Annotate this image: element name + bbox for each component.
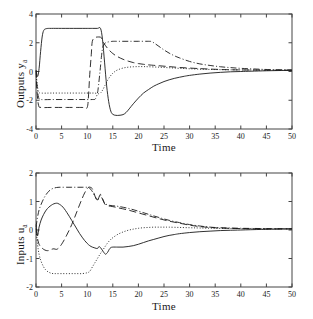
x-tick-label: 40 [237, 290, 245, 299]
x-tick-label: 30 [186, 132, 194, 141]
y-tick-label: 2 [29, 169, 33, 178]
x-tick-label: 25 [160, 290, 168, 299]
series-output-4 [36, 41, 292, 99]
x-tick-label: 5 [60, 290, 64, 299]
x-tick-label: 50 [288, 290, 296, 299]
y-tick-label: 0 [29, 68, 33, 77]
inputs-plot: 05101520253035404550-2-1012 [0, 160, 313, 319]
series-output-3 [36, 67, 292, 94]
x-tick-label: 40 [237, 132, 245, 141]
x-tick-label: 15 [109, 290, 117, 299]
outputs-chart-panel: 05101520253035404550-4-2024 Outputs ya T… [0, 0, 313, 160]
x-tick-label: 35 [211, 132, 219, 141]
x-tick-label: 20 [134, 132, 142, 141]
inputs-chart-panel: 05101520253035404550-2-1012 Inputs ua Ti… [0, 160, 313, 319]
series-input-3 [36, 227, 292, 274]
y-tick-label: 2 [29, 39, 33, 48]
outputs-plot: 05101520253035404550-4-2024 [0, 0, 313, 160]
x-tick-label: 10 [83, 290, 91, 299]
x-tick-label: 0 [34, 290, 38, 299]
x-tick-label: 0 [34, 132, 38, 141]
x-tick-label: 50 [288, 132, 296, 141]
y-tick-label: 4 [29, 10, 33, 19]
x-tick-label: 15 [109, 132, 117, 141]
series-output-1 [36, 28, 292, 116]
inputs-y-axis-label: Inputs ua [14, 224, 29, 265]
series-input-2 [36, 187, 292, 251]
x-tick-label: 30 [186, 290, 194, 299]
figure-container: 05101520253035404550-4-2024 Outputs ya T… [0, 0, 313, 319]
inputs-y-axis-label-subscript: a [20, 224, 29, 228]
x-tick-label: 5 [60, 132, 64, 141]
x-tick-label: 10 [83, 132, 91, 141]
inputs-x-axis-label: Time [36, 300, 292, 312]
y-tick-label: 1 [29, 198, 33, 207]
x-tick-label: 25 [160, 132, 168, 141]
series-output-2 [36, 37, 292, 109]
x-tick-label: 45 [262, 290, 270, 299]
outputs-y-axis-label-subscript: a [20, 60, 29, 64]
y-tick-label: -4 [26, 125, 33, 134]
y-tick-label: 0 [29, 226, 33, 235]
series-input-4 [36, 187, 292, 229]
outputs-y-axis-label-text: Outputs y [14, 63, 26, 108]
outputs-x-axis-label: Time [36, 141, 292, 153]
inputs-y-axis-label-text: Inputs u [14, 228, 26, 265]
x-tick-label: 45 [262, 132, 270, 141]
x-tick-label: 35 [211, 290, 219, 299]
x-tick-label: 20 [134, 290, 142, 299]
y-tick-label: -2 [26, 283, 33, 292]
outputs-y-axis-label: Outputs ya [14, 60, 29, 108]
